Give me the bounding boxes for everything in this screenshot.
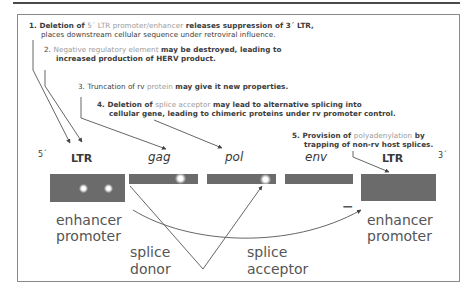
arrow-note-1 bbox=[33, 40, 70, 143]
readthrough-curve bbox=[133, 210, 361, 238]
arrow-note-5 bbox=[353, 151, 389, 172]
splice-acceptor-arrow bbox=[203, 186, 262, 269]
splice-donor-line bbox=[130, 186, 203, 269]
arrow-note-4 bbox=[154, 120, 222, 148]
arrow-note-3 bbox=[81, 97, 166, 149]
arrow-overlay bbox=[0, 0, 474, 300]
arrow-note-2 bbox=[45, 70, 82, 142]
